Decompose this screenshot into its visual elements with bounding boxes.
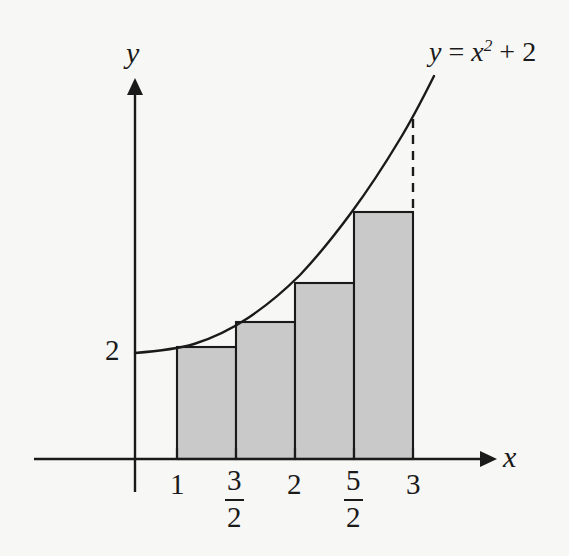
riemann-rectangle (236, 322, 295, 459)
equation-y: y (429, 36, 441, 67)
y-intercept-label: 2 (105, 336, 120, 365)
x-tick-label-1: 1 (170, 470, 185, 499)
equation-equals: = (441, 36, 471, 67)
equation-plus-two-value: + 2 (499, 36, 536, 67)
riemann-rectangles (177, 212, 413, 459)
x-tick-label-2: 2 (287, 470, 302, 499)
fraction-three-halves: 3 2 (225, 466, 244, 532)
curve-equation-label: y = x2 + 2 (429, 38, 536, 66)
x-tick-label-5-2: 5 2 (344, 466, 363, 532)
riemann-rectangle (177, 347, 236, 459)
x-tick-label-3-2: 3 2 (225, 466, 244, 532)
equation-x: x (471, 36, 483, 67)
y-axis (127, 78, 143, 492)
x-axis-arrowhead (480, 451, 497, 467)
y-axis-label: y (126, 38, 139, 68)
fraction-denominator: 2 (225, 503, 244, 533)
fraction-numerator: 3 (225, 466, 244, 496)
riemann-rectangle (295, 283, 354, 459)
x-axis-label: x (503, 442, 516, 472)
fraction-numerator: 5 (344, 466, 363, 496)
x-tick-label-3: 3 (406, 470, 421, 499)
y-axis-arrowhead (127, 78, 143, 95)
figure-canvas (0, 0, 569, 556)
fraction-five-halves: 5 2 (344, 466, 363, 532)
riemann-sum-figure: y x 2 y = x2 + 2 1 3 2 2 5 2 3 (0, 0, 569, 556)
riemann-rectangle (354, 212, 413, 459)
fraction-denominator: 2 (344, 503, 363, 533)
